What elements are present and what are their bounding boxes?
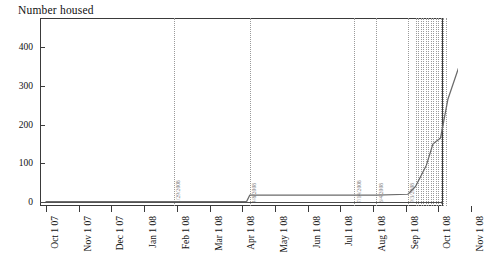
x-tick-label: Nov 1 08: [475, 216, 485, 251]
x-tick-mark: [471, 206, 472, 212]
series-path: [46, 33, 458, 201]
